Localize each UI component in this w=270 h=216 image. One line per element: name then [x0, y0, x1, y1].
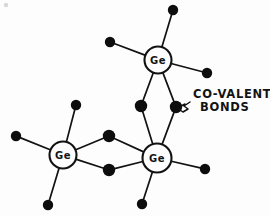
bond-line: [49, 167, 59, 201]
bond-line: [143, 72, 154, 102]
bond-line: [114, 161, 144, 169]
figure-canvas: GeGeGe CO-VALENT BONDS: [0, 0, 270, 216]
electrons-group: [11, 5, 212, 210]
bond-line: [142, 110, 153, 145]
scan-speck: [4, 3, 8, 7]
bond-line: [162, 14, 172, 48]
electron-dot-free: [105, 37, 115, 47]
electron-dot-shared: [170, 101, 182, 113]
atoms-group: GeGeGe: [50, 47, 172, 173]
bond-line: [75, 159, 105, 169]
atom-ge-right: Ge: [143, 144, 172, 173]
callout-label-line2: BONDS: [200, 100, 250, 114]
electron-dot-free: [202, 68, 212, 78]
atom-label: Ge: [149, 153, 165, 164]
atom-ge-top: Ge: [145, 47, 172, 74]
bond-line: [113, 43, 146, 55]
electron-dot-free: [168, 5, 178, 15]
atom-label: Ge: [150, 55, 166, 66]
electron-dot-shared: [103, 130, 115, 142]
covalent-bond-diagram: GeGeGe CO-VALENT BONDS: [0, 0, 270, 216]
bond-line: [143, 171, 153, 201]
electron-dot-free: [200, 164, 210, 174]
annotation-group: CO-VALENT BONDS: [180, 87, 270, 114]
electron-dot-shared: [135, 100, 147, 112]
bond-line: [162, 111, 175, 145]
bond-line: [66, 109, 75, 143]
electron-dot-free: [11, 131, 21, 141]
bond-line: [170, 63, 203, 72]
bond-line: [75, 138, 105, 150]
electron-dot-free: [43, 200, 53, 210]
electron-dot-free: [71, 100, 81, 110]
electron-dot-free: [137, 199, 147, 209]
atom-ge-left: Ge: [50, 142, 77, 169]
bond-line: [19, 137, 51, 150]
electron-dot-shared: [103, 164, 115, 176]
bond-line: [162, 72, 174, 103]
atom-label: Ge: [55, 150, 71, 161]
bond-line: [170, 161, 201, 168]
callout-label-line1: CO-VALENT: [193, 87, 270, 101]
bond-line: [113, 138, 144, 152]
